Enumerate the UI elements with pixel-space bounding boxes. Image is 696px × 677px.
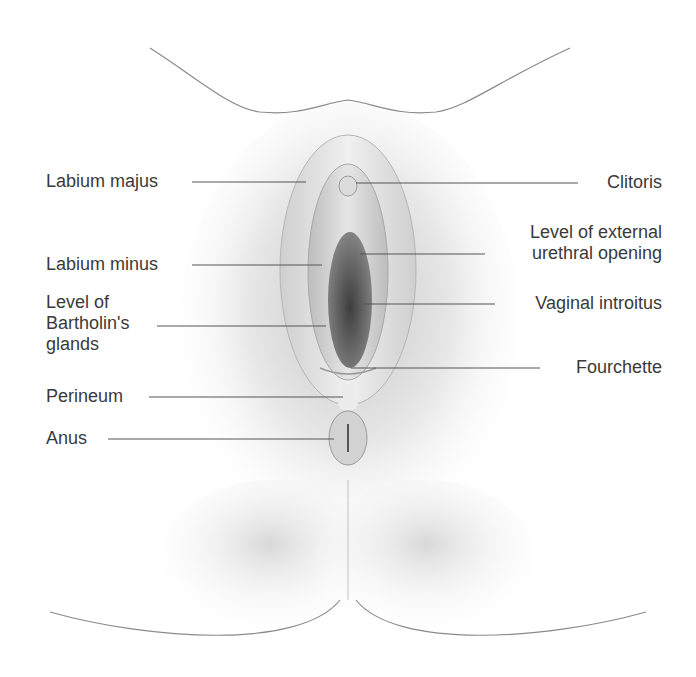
lower-right-shading: [316, 480, 536, 640]
label-labium-minus: Labium minus: [46, 254, 158, 275]
label-vaginal-introitus: Vaginal introitus: [535, 293, 662, 314]
label-anus: Anus: [46, 428, 87, 449]
label-fourchette: Fourchette: [576, 357, 662, 378]
label-urethral-opening: Level of external urethral opening: [530, 222, 662, 264]
anatomy-diagram: Labium majus Labium minus Level of Barth…: [0, 0, 696, 677]
label-clitoris: Clitoris: [607, 172, 662, 193]
label-labium-majus: Labium majus: [46, 171, 158, 192]
introitus-shape: [328, 232, 372, 368]
label-bartholins-glands: Level of Bartholin's glands: [46, 292, 129, 355]
label-perineum: Perineum: [46, 386, 123, 407]
clitoris-shape: [339, 176, 357, 196]
